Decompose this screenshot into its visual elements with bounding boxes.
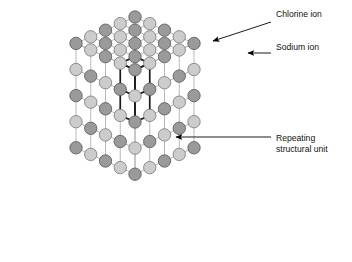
chlorine-ion [144,135,156,147]
chlorine-ion [173,70,185,82]
sodium-ion [85,44,97,56]
chlorine-ion [158,37,170,49]
sodium-ion [158,77,170,89]
chlorine-ion [129,116,141,128]
repeating-unit-label-line2: structural unit [276,144,328,154]
sodium-ion [99,129,111,141]
sodium-ion [99,77,111,89]
sodium-ion [173,96,185,108]
chlorine-ion [129,11,141,23]
sodium-ion [144,161,156,173]
sodium-ion [70,63,82,75]
chlorine-ion [158,50,170,62]
chlorine-ion [188,89,200,101]
chlorine-ion [188,37,200,49]
chlorine-ion [114,83,126,95]
chlorine-ion [99,24,111,36]
chlorine-ion [129,168,141,180]
sodium-ion [144,109,156,121]
chlorine-ion [129,37,141,49]
figure-root: Chlorine ion Sodium ion Repeating struct… [0,0,352,262]
chlorine-ion [188,142,200,154]
sodium-ion [129,90,141,102]
chlorine-ion [173,122,185,134]
sodium-ion [144,17,156,29]
chlorine-ion [99,50,111,62]
sodium-ion [114,161,126,173]
chlorine-ion [158,103,170,115]
chlorine-ion [85,70,97,82]
sodium-ion [173,44,185,56]
chlorine-ion [70,89,82,101]
sodium-ion [85,31,97,43]
sodium-ion [173,31,185,43]
sodium-ion [158,129,170,141]
sodium-ion [173,148,185,160]
chlorine-ion [129,24,141,36]
chlorine-ion [70,142,82,154]
sodium-ion [114,44,126,56]
sodium-ion [188,63,200,75]
sodium-ion [114,31,126,43]
sodium-ion [144,57,156,69]
chlorine-ion-label: Chlorine ion [276,9,322,19]
chlorine-ion [99,103,111,115]
sodium-ion [188,116,200,128]
chlorine-ion [129,50,141,62]
sodium-ion [129,142,141,154]
sodium-ion [85,96,97,108]
chlorine-ion [158,24,170,36]
chlorine-ion [85,122,97,134]
chlorine-ion [114,135,126,147]
sodium-ion [144,31,156,43]
chlorine-ion [158,155,170,167]
chlorine-ion [99,37,111,49]
crystal-lattice-diagram: Chlorine ion Sodium ion Repeating struct… [0,0,352,262]
chlorine-ion [70,37,82,49]
sodium-ion [85,148,97,160]
chlorine-ion [129,64,141,76]
sodium-ion-label: Sodium ion [276,42,319,52]
sodium-ion [114,57,126,69]
sodium-ion [70,116,82,128]
sodium-ion [114,17,126,29]
chlorine-ion [99,155,111,167]
sodium-ion [144,44,156,56]
repeating-unit-label-line1: Repeating [276,133,315,143]
sodium-ion [114,109,126,121]
chlorine-ion [144,83,156,95]
